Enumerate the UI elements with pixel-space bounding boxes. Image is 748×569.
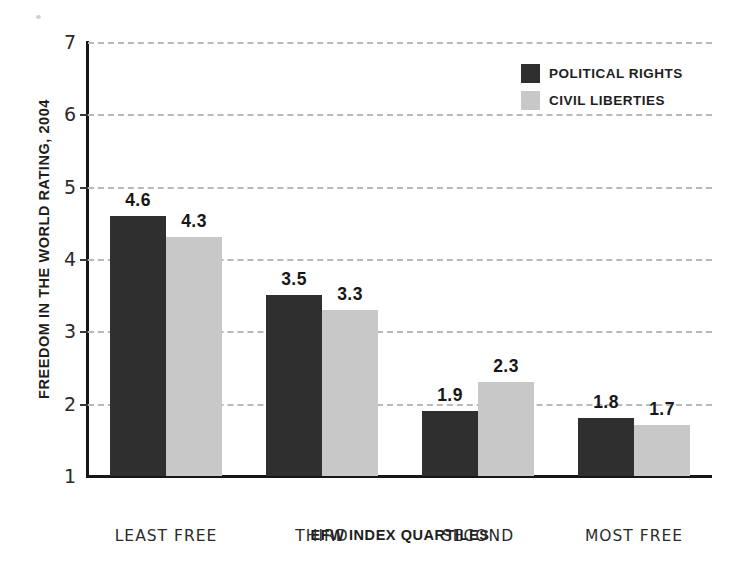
y-axis-tick-label: 4 bbox=[64, 248, 76, 270]
y-axis-title: FREEDOM IN THE WORLD RATING, 2004 bbox=[36, 19, 52, 479]
legend-item: CIVIL LIBERTIES bbox=[521, 87, 683, 114]
y-axis-tick-mark bbox=[80, 404, 88, 406]
legend-swatch bbox=[521, 91, 540, 110]
y-axis-tick-mark bbox=[80, 187, 88, 189]
y-axis-tick-mark bbox=[80, 114, 88, 116]
bar: 1.9 bbox=[422, 411, 478, 476]
y-axis-tick-mark bbox=[80, 259, 88, 261]
x-axis-tick-label: LEAST FREE bbox=[115, 527, 218, 545]
bar: 3.5 bbox=[266, 295, 322, 476]
gridline bbox=[88, 42, 712, 44]
bar: 3.3 bbox=[322, 310, 378, 476]
bar-value-label: 1.8 bbox=[593, 392, 619, 413]
bar-value-label: 4.6 bbox=[125, 190, 151, 211]
legend-swatch bbox=[521, 64, 540, 83]
y-axis-tick-label: 5 bbox=[64, 176, 76, 198]
bar-value-label: 3.3 bbox=[337, 284, 363, 305]
bar: 1.7 bbox=[634, 425, 690, 476]
bar-chart-figure: FREEDOM IN THE WORLD RATING, 2004 EFW IN… bbox=[0, 0, 748, 569]
bar: 1.8 bbox=[578, 418, 634, 476]
bar: 4.6 bbox=[110, 216, 166, 476]
y-axis-tick-label: 6 bbox=[64, 103, 76, 125]
legend-label: POLITICAL RIGHTS bbox=[549, 66, 683, 81]
y-axis-tick-label: 7 bbox=[64, 31, 76, 53]
x-axis-tick-label: MOST FREE bbox=[585, 527, 683, 545]
gridline bbox=[88, 114, 712, 116]
gridline bbox=[88, 187, 712, 189]
bar: 2.3 bbox=[478, 382, 534, 476]
legend-item: POLITICAL RIGHTS bbox=[521, 60, 683, 87]
y-axis-tick-label: 2 bbox=[64, 393, 76, 415]
bar-value-label: 3.5 bbox=[281, 269, 307, 290]
x-axis-tick-label: THIRD bbox=[295, 527, 348, 545]
y-axis-tick-mark bbox=[80, 331, 88, 333]
y-axis-tick-label: 1 bbox=[64, 465, 76, 487]
bar-value-label: 1.7 bbox=[649, 399, 675, 420]
bar: 4.3 bbox=[166, 237, 222, 476]
bar-value-label: 2.3 bbox=[493, 356, 519, 377]
bar-value-label: 4.3 bbox=[181, 211, 207, 232]
chart-legend: POLITICAL RIGHTSCIVIL LIBERTIES bbox=[521, 60, 683, 114]
y-axis-tick-label: 3 bbox=[64, 320, 76, 342]
bar-value-label: 1.9 bbox=[437, 385, 463, 406]
legend-label: CIVIL LIBERTIES bbox=[549, 93, 665, 108]
x-axis-tick-label: SECOND bbox=[442, 527, 514, 545]
